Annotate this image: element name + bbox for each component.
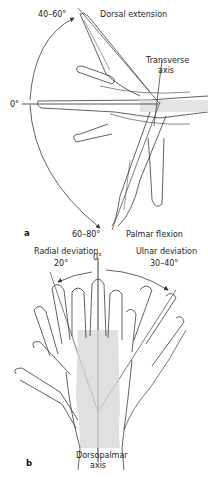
extension-angle-label: 40–60° — [38, 10, 66, 19]
radial-deviation-label: Radial deviation — [34, 247, 98, 256]
extension-arc — [30, 18, 74, 100]
transverse-axis-label-line2: axis — [158, 66, 174, 75]
palmar-flexion-label: Palmar flexion — [126, 230, 183, 239]
wrist-motion-illustration — [0, 0, 208, 484]
flexion-arc — [30, 105, 100, 228]
transverse-axis-label-line1: Transverse — [146, 56, 189, 65]
neutral-zero-label-b: 0° — [93, 253, 102, 262]
neutral-zero-label-a: 0° — [10, 100, 19, 109]
panel-b-drawing — [15, 258, 186, 470]
dorsopalmar-axis-label-line1: Dorsopalmar — [76, 451, 128, 460]
ulnar-arc — [106, 270, 168, 290]
radial-angle-label: 20° — [54, 259, 68, 268]
panel-a-letter: a — [24, 228, 30, 238]
ulnar-angle-label: 30–40° — [150, 259, 178, 268]
radial-arc — [58, 272, 92, 282]
ulnar-deviation-label: Ulnar deviation — [136, 247, 197, 256]
dorsopalmar-axis-label-line2: axis — [90, 461, 106, 470]
dorsal-extension-label: Dorsal extension — [100, 10, 167, 19]
flexion-angle-label: 60–80° — [72, 230, 100, 239]
panel-b-letter: b — [26, 458, 32, 468]
panel-a-drawing — [22, 8, 208, 230]
